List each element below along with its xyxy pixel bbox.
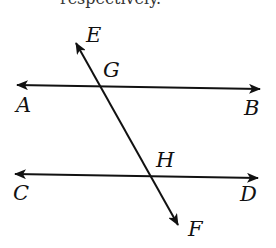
parallel-lines-transversal-diagram: respectively. E G A B H C D F: [0, 0, 276, 248]
line-cd: [15, 174, 258, 178]
label-f: F: [187, 217, 204, 241]
line-ab: [17, 85, 260, 89]
label-h: H: [155, 148, 175, 172]
transversal-ef: [76, 43, 178, 225]
label-d: D: [239, 182, 257, 206]
label-c: C: [13, 181, 29, 205]
label-b: B: [243, 96, 259, 120]
label-g: G: [103, 58, 120, 82]
label-e: E: [85, 23, 101, 47]
cut-off-caption: respectively.: [60, 0, 161, 8]
label-a: A: [14, 93, 31, 117]
